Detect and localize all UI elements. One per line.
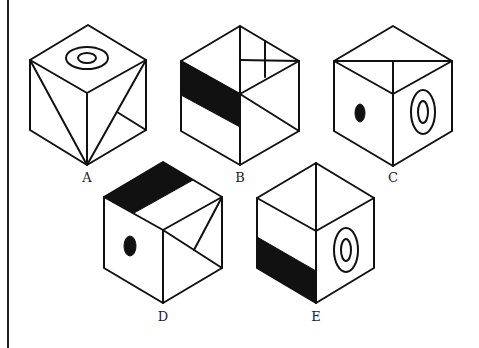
cube-a: [30, 25, 146, 165]
option-label-c: C: [388, 170, 398, 185]
option-label-a: A: [82, 170, 91, 185]
black-dot-icon: [124, 236, 136, 256]
cube-e: [257, 163, 374, 303]
option-label-d: D: [158, 309, 168, 324]
black-dot-icon: [355, 104, 365, 122]
cube-c: [334, 26, 452, 166]
cube-b: [181, 26, 299, 165]
option-label-e: E: [311, 309, 321, 324]
cube-d: [104, 162, 222, 303]
option-label-b: B: [235, 170, 245, 185]
